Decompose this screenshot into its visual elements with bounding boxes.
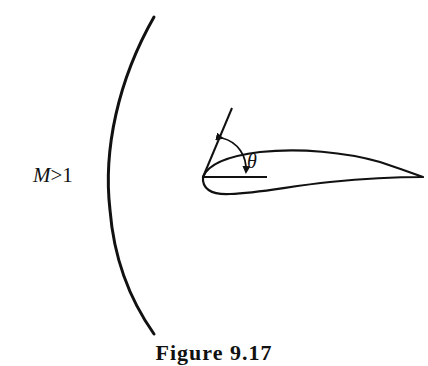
mach-relation: >1 (51, 163, 73, 187)
leading-edge-tangent-line (203, 108, 232, 177)
mach-symbol: M (33, 163, 51, 187)
mach-number-label: M>1 (33, 163, 73, 188)
theta-angle-arc (222, 138, 246, 172)
theta-angle-label: θ (247, 150, 257, 173)
shock-wave-curve (108, 17, 154, 334)
figure-caption: Figure 9.17 (0, 340, 428, 366)
airfoil-outline (203, 150, 423, 194)
